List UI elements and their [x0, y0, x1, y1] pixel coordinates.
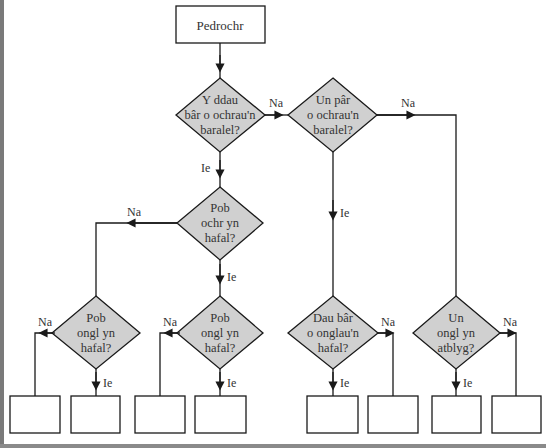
edge-label-d6-no: Na — [381, 316, 395, 328]
decision-d6 — [288, 296, 378, 369]
edge-label-d2-yes: Ie — [340, 207, 349, 219]
decision-d5 — [177, 296, 263, 369]
edge-label-d4-no: Na — [38, 316, 52, 328]
answer-box-5 — [307, 396, 358, 433]
answer-box-4 — [195, 396, 246, 433]
edge-label-d1-yes: Ie — [201, 162, 210, 174]
edge-label-d7-no: Na — [503, 316, 517, 328]
answer-box-2 — [71, 396, 120, 433]
edge-label-d6-yes: Ie — [340, 377, 349, 389]
edge-label-d4-yes: Ie — [103, 377, 112, 389]
decision-d1 — [176, 78, 265, 152]
edge-label-d7-yes: Ie — [463, 377, 472, 389]
edge-label-d5-yes: Ie — [227, 377, 236, 389]
answer-box-3 — [135, 396, 185, 433]
edge-label-d2-no: Na — [401, 97, 415, 109]
answer-box-7 — [432, 396, 481, 433]
decision-d3 — [177, 187, 263, 260]
edge-label-d3-no: Na — [127, 206, 141, 218]
answer-box-1 — [10, 396, 60, 433]
decision-d4 — [52, 296, 140, 369]
answer-box-8 — [492, 396, 541, 433]
edge-label-d5-no: Na — [163, 316, 177, 328]
decision-d2 — [288, 78, 377, 152]
edge-label-d1-no: Na — [269, 97, 283, 109]
edge-label-d3-yes: Ie — [227, 271, 236, 283]
answer-box-6 — [368, 396, 418, 433]
decision-d7 — [413, 296, 500, 369]
start-box — [176, 6, 265, 43]
